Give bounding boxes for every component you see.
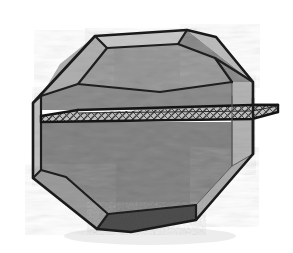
face-right bbox=[232, 82, 253, 166]
polyhedron-diagram: Truncated cube intersected by a horizont… bbox=[0, 0, 293, 253]
figure-root: Truncated cube intersected by a horizont… bbox=[0, 0, 293, 253]
